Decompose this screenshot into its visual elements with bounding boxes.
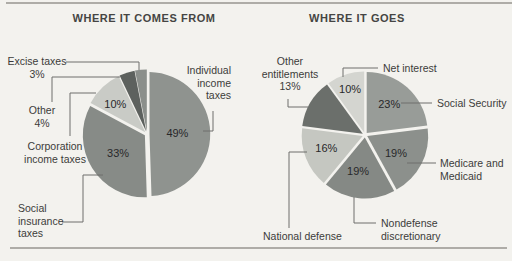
slice-pct-label-nondefense-discretionary: 19% [347, 165, 369, 177]
leader-line-national-defense [289, 152, 307, 228]
slice-pct-label-net-interest: 10% [339, 83, 361, 95]
leader-line-nondefense-discretionary [354, 197, 376, 223]
slice-pct-label-corporation-income-taxes: 10% [104, 98, 126, 110]
leader-line-other-entitlements [288, 99, 308, 107]
leader-line-social-insurance-taxes [62, 175, 103, 222]
slice-pct-label-national-defense: 16% [315, 142, 337, 154]
slice-pct-label-social-security: 23% [378, 98, 400, 110]
slice-pct-label-social-insurance-taxes: 33% [107, 147, 129, 159]
slice-pct-label-individual-income-taxes: 49% [166, 127, 188, 139]
pie-charts-canvas: 49%33%10%23%19%19%16%10% [0, 0, 512, 261]
slice-pct-label-medicare-and-medicaid: 19% [385, 147, 407, 159]
leader-line-excise-taxes [66, 62, 139, 70]
